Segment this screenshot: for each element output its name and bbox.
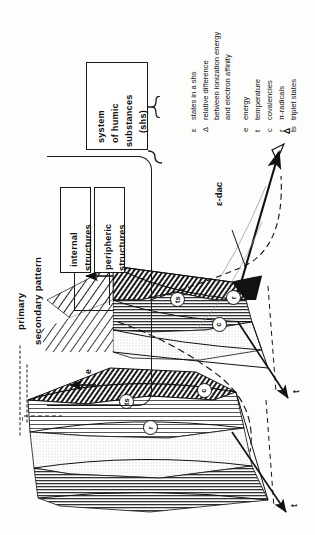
peripheric-box-stem <box>109 273 110 305</box>
region-marker-c-lower: c <box>197 383 212 398</box>
figure-page: ts r c ts c r Δ t t e e ε-dac system of … <box>0 0 315 535</box>
bracket-joint <box>148 150 162 164</box>
secondary-pattern-elbow <box>22 412 62 422</box>
region-marker-r-upper: r <box>226 290 241 305</box>
legend-text-c: covalencies <box>266 80 275 120</box>
shs-root-line2: of humic <box>110 103 120 143</box>
epsilon-dac-label: ε-dac <box>214 182 225 206</box>
legend-text-ts: triplet states <box>290 79 299 120</box>
legend-symbol-e: e <box>242 128 251 132</box>
internal-box-stem <box>74 273 75 311</box>
region-marker-r-lower: r <box>143 420 158 435</box>
legend-text-e: energy <box>242 97 251 120</box>
legend-symbol-c: c <box>266 128 275 132</box>
hierarchy-bracket <box>47 156 152 406</box>
legend-text-epsilon: states in a shs <box>190 71 199 120</box>
shs-root-line4: (shs) <box>138 110 148 133</box>
legend-text-r: π-radicals <box>278 86 287 120</box>
axis-label-temperature-lower: t <box>290 506 293 517</box>
legend-symbol-delta: Δ <box>202 127 211 132</box>
internal-box-stem-foot <box>74 310 114 311</box>
primary-pattern-sample <box>20 346 21 436</box>
axis-label-temperature-upper: t <box>292 392 295 403</box>
legend-symbol-epsilon: ε <box>190 129 199 132</box>
shs-bracket-curly <box>148 96 164 118</box>
shs-root-box: system of humic substances (shs) <box>86 62 148 150</box>
legend-text-delta-line3: and electron affinity <box>224 54 233 120</box>
symbol-legend: ε states in a shs Δ relative difference … <box>186 6 312 138</box>
region-marker-c-upper: c <box>212 317 227 332</box>
legend-text-delta-line2: between ionization energy <box>213 32 222 120</box>
secondary-pattern-label: secondary pattern <box>33 257 44 345</box>
primary-pattern-label: primary <box>16 293 27 330</box>
legend-symbol-r: r <box>278 129 287 132</box>
region-marker-ts-upper: ts <box>170 292 185 307</box>
legend-text-t: temperature <box>254 79 263 120</box>
legend-symbol-t: t <box>254 130 263 132</box>
legend-symbol-ts: ts <box>290 126 299 132</box>
shs-root-line3: substances <box>124 94 134 147</box>
legend-text-delta-line1: relative difference <box>202 60 211 120</box>
shs-root-line1: system <box>96 110 106 143</box>
